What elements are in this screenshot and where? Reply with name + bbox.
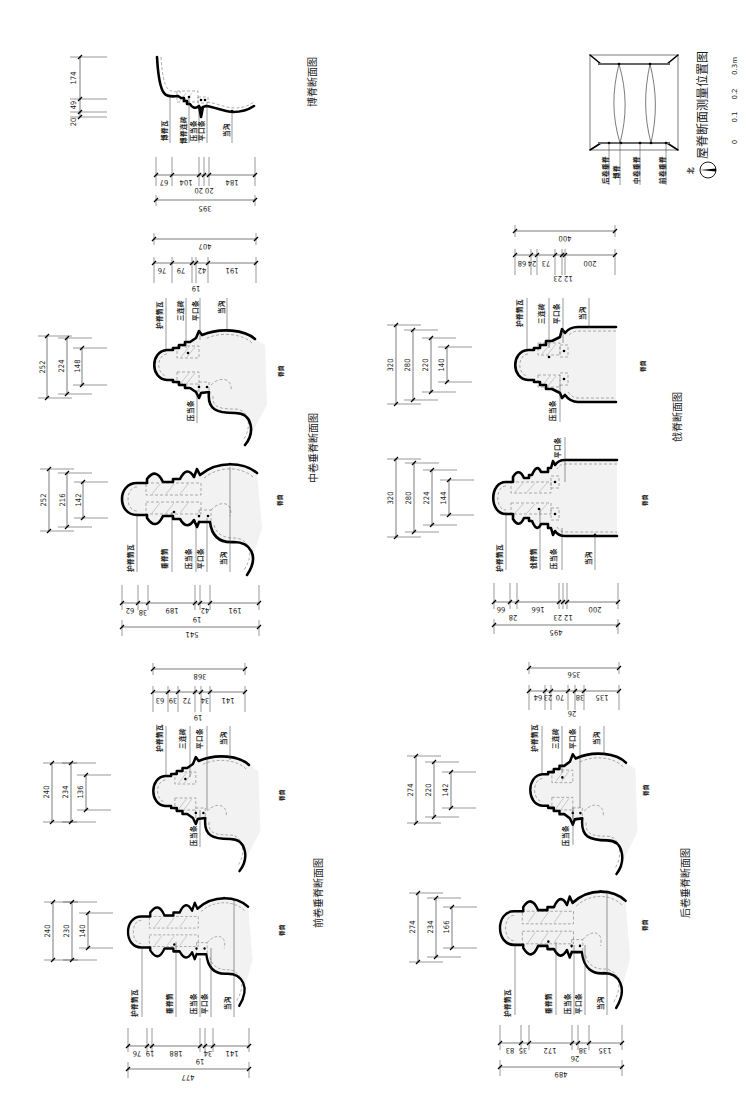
scale-tick-label: 0.1 xyxy=(731,111,739,122)
width-dimension-value: 76 xyxy=(133,1049,142,1058)
plan-roll-ridge-1 xyxy=(614,64,625,143)
qiangji-long-section: 护脊筒瓦戗脊筒压当条当沟平口条320280224144662816620012 … xyxy=(386,437,650,637)
height-dimension-value: 224 xyxy=(422,492,431,505)
part-label: 压当条 xyxy=(189,993,198,1014)
part-label: 压当条 xyxy=(184,548,193,569)
part-label: 平口条 xyxy=(568,728,577,749)
width-total-value: 368 xyxy=(194,672,207,681)
part-label: 当沟 xyxy=(592,731,601,745)
height-dimension-value: 252 xyxy=(38,361,47,374)
north-label: 北 xyxy=(686,167,695,174)
height-dimension-value: 320 xyxy=(386,359,395,372)
height-dimension-value: 144 xyxy=(439,492,448,505)
part-label: 垂脊筒 xyxy=(544,993,553,1014)
section-title: 博脊断面图 xyxy=(306,57,318,107)
width-subdimension-value: 19 xyxy=(194,713,203,722)
width-dimension-value: 38 xyxy=(576,693,585,702)
part-label: 压当条 xyxy=(561,825,570,846)
ridge-profile xyxy=(530,754,637,874)
qianjuan-short-section: 护脊筒瓦三连砖平口条当沟压当条2402341366339723414119368… xyxy=(42,663,287,871)
width-subdimension-value: 26 xyxy=(571,1054,580,1063)
height-dimension-value: 216 xyxy=(58,494,67,507)
boji-section: 博脊瓦博脊连砖压当条平口条当沟17449206710420 20184395 xyxy=(69,55,258,213)
width-dimension-value: 191 xyxy=(226,266,239,275)
width-dimension-value: 62 xyxy=(126,606,135,615)
width-total-value: 541 xyxy=(186,630,199,639)
height-dimension-value: 280 xyxy=(404,492,413,505)
horizontal-dimension-chain xyxy=(126,1028,251,1052)
width-subdimension-value: 12 23 xyxy=(553,613,572,622)
houjuan-long-section: 护脊筒瓦垂脊筒压当条平口条当沟2742341668335172381352648… xyxy=(408,890,650,1079)
height-dimension-value: 142 xyxy=(74,494,83,507)
height-dimension-value: 166 xyxy=(442,921,451,934)
body-label: 脊筒 xyxy=(639,360,647,373)
scale-tick-label: 0.2 xyxy=(731,88,739,99)
width-dimension-value: 189 xyxy=(166,606,179,615)
part-label: 平口条 xyxy=(200,993,209,1014)
width-dimension-value: 63 xyxy=(156,696,165,705)
section-title: 中卷垂脊断面图 xyxy=(307,413,319,483)
horizontal-dimension-chain xyxy=(154,157,257,186)
part-label: 三连砖 xyxy=(178,728,187,749)
width-dimension-value: 83 xyxy=(506,1046,515,1055)
section-title: 戗脊断面图 xyxy=(671,392,683,442)
width-dimension-value: 135 xyxy=(596,693,609,702)
height-dimension-value: 174 xyxy=(69,72,78,85)
width-subdimension-value: 12 23 xyxy=(553,274,572,283)
part-label: 平口条 xyxy=(553,437,562,458)
scale-tick-label: 0 xyxy=(731,140,739,144)
width-total-value: 407 xyxy=(199,242,212,251)
zhongjuan-long-section: 护脊筒瓦垂脊筒压当条平口条当沟2522161426238189421911954… xyxy=(39,463,285,639)
height-dimension-value: 224 xyxy=(57,360,66,373)
width-dimension-value: 42 xyxy=(201,606,210,615)
body-label: 脊筒 xyxy=(278,789,286,802)
width-dimension-value: 172 xyxy=(544,1046,557,1055)
plan-outline xyxy=(590,55,678,150)
width-dimension-value: 141 xyxy=(226,1049,239,1058)
body-label: 脊筒 xyxy=(642,784,650,797)
part-label: 护脊筒瓦 xyxy=(495,544,504,572)
part-label: 当沟 xyxy=(584,551,593,565)
width-dimension-value: 73 xyxy=(542,259,551,268)
part-label: 博脊连砖 xyxy=(179,116,188,144)
part-label: 当沟 xyxy=(596,996,605,1010)
width-dimension-value: 70 xyxy=(556,693,565,702)
height-dimension-value: 274 xyxy=(408,921,417,934)
part-label: 垂脊筒 xyxy=(160,548,169,569)
width-dimension-value: 72 xyxy=(183,696,192,705)
qianjuan-long-section: 护脊筒瓦垂脊筒压当条平口条当沟2402301407619188341411947… xyxy=(43,897,287,1082)
width-dimension-value: 39 xyxy=(169,696,178,705)
location-plan-label: 前卷垂脊 xyxy=(658,156,667,184)
height-dimension-value: 220 xyxy=(424,784,433,797)
height-dimension-value: 140 xyxy=(78,925,87,938)
location-plan-label: 后卷垂脊 xyxy=(601,156,610,184)
height-dimension-value: 274 xyxy=(406,784,415,797)
height-dimension-value: 140 xyxy=(437,359,446,372)
part-label: 护脊筒瓦 xyxy=(155,724,164,752)
part-label: 当沟 xyxy=(223,996,232,1010)
part-label: 平口条 xyxy=(574,993,583,1014)
height-dimension-value: 240 xyxy=(42,786,51,799)
height-dimension-value: 142 xyxy=(441,784,450,797)
width-dimension-value: 34 xyxy=(204,1049,213,1058)
part-label: 博脊瓦 xyxy=(160,120,169,141)
part-label: 护脊筒瓦 xyxy=(130,989,139,1017)
width-dimension-value: 188 xyxy=(170,1049,183,1058)
plan-marker xyxy=(650,142,653,145)
part-label: 三连砖 xyxy=(537,303,546,324)
section-title: 后卷垂脊断面图 xyxy=(679,848,691,918)
width-dimension-value: 64 xyxy=(534,693,543,702)
qiangji-short-section: 护脊筒瓦三连砖平口条当沟压当条32028022014068247320012 2… xyxy=(386,225,648,422)
height-dimension-value: 136 xyxy=(76,786,85,799)
part-label: 护脊筒瓦 xyxy=(503,989,512,1017)
width-dimension-value: 76 xyxy=(158,266,167,275)
part-label: 压当条 xyxy=(189,825,198,846)
part-label: 护脊筒瓦 xyxy=(515,299,524,327)
part-label: 当沟 xyxy=(219,551,228,565)
part-label: 当沟 xyxy=(578,306,587,320)
part-label: 当沟 xyxy=(217,300,226,314)
part-label: 三连砖 xyxy=(551,728,560,749)
location-plan: 屋脊断面测量位置图后卷垂脊博脊中卷垂脊前卷垂脊 xyxy=(590,51,710,185)
height-dimension-value: 220 xyxy=(421,359,430,372)
width-total-value: 495 xyxy=(550,628,563,637)
